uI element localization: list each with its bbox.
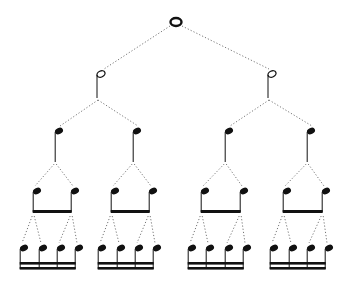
eighth-beam (33, 210, 72, 213)
sixteenth-beam-lower (188, 267, 244, 270)
connector-line (202, 216, 208, 243)
connector-line (112, 216, 119, 243)
whole-note-icon (171, 18, 182, 26)
connector-line (113, 164, 132, 186)
sixteenth-beam-lower (20, 267, 76, 270)
connector-line (98, 100, 138, 126)
eighth-beam (283, 210, 323, 213)
sixteenth-beam-upper (270, 262, 326, 265)
connector-line (35, 164, 54, 186)
sixteenth-beam-upper (98, 262, 154, 265)
connector-line (227, 216, 239, 243)
connector-line (134, 164, 151, 186)
connector-line (137, 216, 148, 243)
connector-line (22, 216, 32, 243)
connector-line (182, 26, 269, 69)
connector-line (56, 164, 73, 186)
connector-line (60, 100, 98, 126)
connector-line (72, 216, 77, 243)
connector-line (241, 216, 245, 243)
connector-line (104, 26, 170, 69)
eighth-beam (201, 210, 241, 213)
sixteenth-beam-lower (98, 267, 154, 270)
connector-line (285, 164, 306, 186)
connector-line (284, 216, 291, 243)
connector-line (190, 216, 200, 243)
connector-line (226, 164, 242, 186)
connector-line (309, 216, 321, 243)
connector-line (59, 216, 70, 243)
sixteenth-beam-upper (20, 262, 76, 265)
eighth-beam (111, 210, 150, 213)
connector-line (150, 216, 155, 243)
connector-line (203, 164, 224, 186)
connector-line (269, 100, 312, 126)
sixteenth-beam-upper (188, 262, 244, 265)
connector-line (272, 216, 282, 243)
connector-line (308, 164, 324, 186)
connector-line (230, 100, 269, 126)
connector-line (34, 216, 41, 243)
connector-line (100, 216, 110, 243)
sixteenth-beam-lower (270, 267, 326, 270)
note-subdivision-tree (0, 0, 353, 295)
connector-line (323, 216, 327, 243)
